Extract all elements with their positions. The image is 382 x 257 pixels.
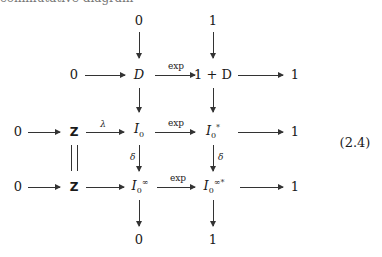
arrow-down [139,145,140,171]
exp-label: exp [168,61,184,71]
lambda-label: λ [100,119,106,129]
bottom-one: 1 [209,233,217,247]
arrow-right [240,187,283,188]
row1-one: 1 [291,68,299,82]
delta-label: δ [130,152,135,162]
arrow-down [213,32,214,58]
arrow-down [213,145,214,171]
row2-one: 1 [291,125,299,139]
node-D: D [134,68,144,82]
exp-label: exp [168,118,184,128]
row2-zero: 0 [14,125,22,139]
bottom-zero: 0 [135,233,143,247]
node-I0-inf: I0∞ [132,176,149,199]
arrow-down [213,88,214,112]
arrow-down [139,88,140,112]
arrow-right [238,75,283,76]
arrow-right [155,132,195,133]
node-1-plus-D: 1 + D [194,68,232,82]
cut-off-text: commutative diagram [0,0,133,5]
node-I0-inf-star: I0∞* [204,176,225,199]
arrow-down [139,200,140,226]
arrow-right [28,187,60,188]
arrow-right [85,75,125,76]
arrow-right [155,75,195,76]
arrow-down [139,32,140,58]
exp-label: exp [170,173,186,183]
top-one: 1 [209,14,217,28]
equals-vertical [71,145,78,171]
row3-zero: 0 [14,180,22,194]
arrow-down [213,200,214,226]
arrow-right [86,132,124,133]
row3-one: 1 [291,180,299,194]
arrow-right [28,132,60,133]
equation-number: (2.4) [340,135,371,150]
node-I0: I0 [134,122,144,142]
arrow-right [238,132,283,133]
arrow-right [157,187,195,188]
top-zero: 0 [135,14,143,28]
arrow-right [86,187,124,188]
node-I0-star: I0* [206,121,220,144]
delta-label: δ [218,152,223,162]
row1-zero: 0 [70,68,78,82]
node-Z: Z [70,125,79,139]
node-Z: Z [70,180,79,194]
